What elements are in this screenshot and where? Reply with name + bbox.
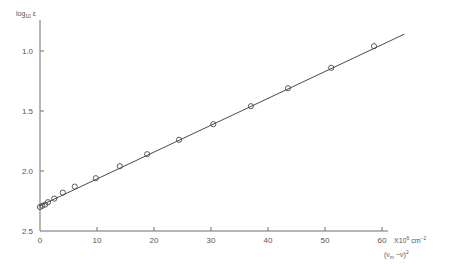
y-tick-label: 1.0: [22, 47, 34, 56]
x-tick-label: 0: [38, 236, 43, 245]
x-tick-label: 20: [150, 236, 159, 245]
x-tick-label: 40: [264, 236, 273, 245]
x-tick-label: 60: [378, 236, 387, 245]
y-tick-label: 1.5: [22, 107, 34, 116]
x-tick-label: 50: [321, 236, 330, 245]
data-point-marker: [60, 190, 65, 195]
x-axis-title: (νm −ν)2: [384, 249, 409, 260]
x-axis-units: X106 cm−2: [394, 235, 426, 244]
chart: 1.01.52.02.5 log10 ε 0102030405060 X106 …: [0, 0, 449, 265]
plot-area: [37, 34, 404, 209]
x-axis: 0102030405060 X106 cm−2 (νm −ν)2: [38, 227, 427, 260]
x-tick-label: 10: [93, 236, 102, 245]
y-axis-title: log10 ε: [16, 10, 36, 19]
y-axis: 1.01.52.02.5 log10 ε: [16, 10, 44, 236]
y-tick-label: 2.0: [22, 167, 34, 176]
x-tick-label: 30: [207, 236, 216, 245]
data-point-marker: [72, 184, 77, 189]
y-tick-label: 2.5: [22, 227, 34, 236]
